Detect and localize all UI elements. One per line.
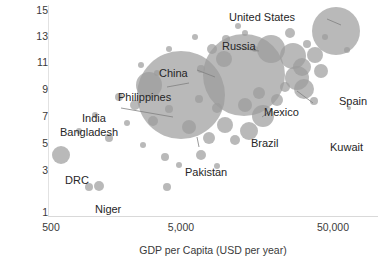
label-china: China — [159, 67, 188, 80]
leader-philippines — [167, 83, 189, 87]
label-mexico: Mexico — [264, 106, 299, 119]
label-philippines: Philippines — [118, 91, 171, 104]
y-tick-5: 5 — [22, 137, 48, 149]
leader-united-states — [327, 19, 341, 25]
label-bangladesh: Bangladesh — [60, 126, 118, 139]
bubble-chart: Average Years in Education 15 13 11 9 7 … — [0, 0, 380, 264]
leader-spain — [297, 91, 313, 103]
label-united-states: United States — [229, 11, 295, 24]
y-tick-1: 1 — [22, 206, 48, 218]
leader-pakistan — [197, 137, 199, 147]
label-india: India — [82, 112, 106, 125]
label-niger: Niger — [95, 203, 121, 216]
label-brazil: Brazil — [251, 137, 279, 150]
leader-india — [121, 108, 173, 117]
y-tick-3: 3 — [22, 164, 48, 176]
x-tick-5000: 5,000 — [146, 221, 216, 233]
x-tick-500: 500 — [16, 221, 86, 233]
label-pakistan: Pakistan — [185, 166, 227, 179]
y-tick-11: 11 — [22, 56, 48, 68]
plot-area — [48, 5, 378, 217]
y-tick-13: 13 — [22, 30, 48, 42]
y-tick-15: 15 — [22, 4, 48, 16]
x-axis-title: GDP per Capita (USD per year) — [48, 244, 378, 256]
leader-line-layer — [49, 5, 379, 217]
label-russia: Russia — [222, 40, 256, 53]
label-drc: DRC — [65, 174, 89, 187]
leader-china — [197, 70, 215, 77]
label-spain: Spain — [339, 95, 367, 108]
y-tick-9: 9 — [22, 83, 48, 95]
y-tick-7: 7 — [22, 110, 48, 122]
x-tick-50000: 50,000 — [298, 221, 368, 233]
label-kuwait: Kuwait — [330, 141, 363, 154]
